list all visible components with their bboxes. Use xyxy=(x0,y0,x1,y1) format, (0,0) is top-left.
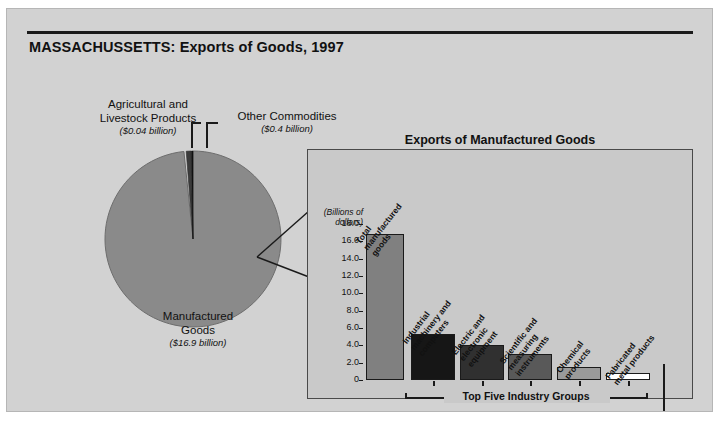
page-title: MASSACHUSSETTS: Exports of Goods, 1997 xyxy=(29,39,344,55)
y-axis-line xyxy=(663,364,665,412)
y-tick-mark xyxy=(359,224,363,225)
bracket-label: Top Five Industry Groups xyxy=(405,390,647,402)
y-tick-label: 6.0 xyxy=(329,322,359,332)
y-tick-label: 4.0 xyxy=(329,339,359,349)
pie-label-manufactured-value: ($16.9 billion) xyxy=(123,337,273,349)
x-tick-mark xyxy=(433,381,435,386)
y-tick-label: 10.0 xyxy=(329,287,359,297)
y-tick-label: 14.0 xyxy=(329,253,359,263)
y-tick-mark xyxy=(359,259,363,260)
pie-label-manufactured-name: ManufacturedGoods xyxy=(123,309,273,337)
x-tick-mark xyxy=(579,381,581,386)
x-tick-mark xyxy=(628,381,630,386)
pie-label-agricultural: Agricultural andLivestock Products ($0.0… xyxy=(73,97,223,137)
y-tick-mark xyxy=(359,363,363,364)
bar-0 xyxy=(366,234,404,380)
x-tick-mark xyxy=(482,381,484,386)
figure-panel: MASSACHUSSETTS: Exports of Goods, 1997 A… xyxy=(6,8,713,412)
pie-label-other-name: Other Commodities xyxy=(217,109,357,123)
y-tick-label: 18.0 xyxy=(329,218,359,228)
pie-label-manufactured: ManufacturedGoods ($16.9 billion) xyxy=(123,309,273,349)
y-tick-mark xyxy=(359,328,363,329)
y-tick-mark xyxy=(359,380,363,381)
y-tick-mark xyxy=(359,276,363,277)
y-tick-mark xyxy=(359,293,363,294)
y-tick-label: 2.0 xyxy=(329,357,359,367)
x-tick-mark xyxy=(530,381,532,386)
pie-label-agricultural-value: ($0.04 billion) xyxy=(73,125,223,137)
y-tick-mark xyxy=(359,311,363,312)
y-tick-mark xyxy=(359,345,363,346)
y-tick-label: 0 xyxy=(329,374,359,384)
pie-label-other-commodities: Other Commodities ($0.4 billion) xyxy=(217,109,357,135)
title-divider xyxy=(27,31,693,34)
pie-label-agricultural-name: Agricultural andLivestock Products xyxy=(73,97,223,125)
y-tick-label: 12.0 xyxy=(329,270,359,280)
callout-connector xyxy=(255,205,311,283)
y-tick-label: 8.0 xyxy=(329,305,359,315)
bar-chart-title: Exports of Manufactured Goods xyxy=(307,133,693,147)
